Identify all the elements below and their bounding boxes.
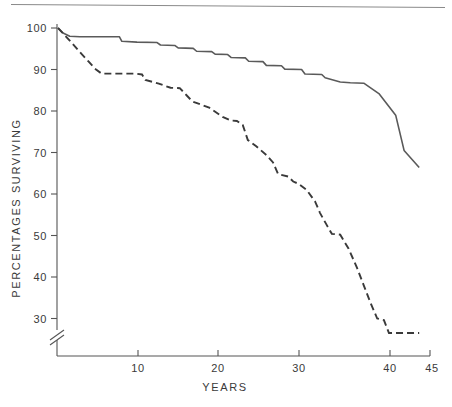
x-axis-title: YEARS <box>202 381 247 393</box>
y-tick-label-50: 50 <box>34 230 47 242</box>
x-tick-label-45: 45 <box>425 362 438 374</box>
series-dashed-curve <box>58 28 419 333</box>
y-tick-label-60: 60 <box>34 188 47 200</box>
y-tick-label-100: 100 <box>27 22 47 34</box>
x-tick-label-30: 30 <box>292 362 305 374</box>
y-tick-label-30: 30 <box>34 313 47 325</box>
x-tick-label-10: 10 <box>131 362 144 374</box>
y-tick-label-70: 70 <box>34 147 47 159</box>
x-axis-ticks: 10 20 30 40 45 <box>131 350 438 374</box>
y-axis-title: PERCENTAGES SURVIVING <box>10 118 22 297</box>
y-tick-label-90: 90 <box>34 64 47 76</box>
x-tick-label-40: 40 <box>383 362 396 374</box>
y-tick-label-40: 40 <box>34 271 47 283</box>
page-top-rule <box>11 5 445 8</box>
x-tick-label-20: 20 <box>211 362 224 374</box>
y-tick-label-80: 80 <box>34 105 47 117</box>
survival-chart-svg: 100 90 80 70 60 50 40 30 10 20 30 <box>0 0 452 407</box>
survival-chart-figure: 100 90 80 70 60 50 40 30 10 20 30 <box>0 0 452 407</box>
series-solid-curve <box>58 28 419 167</box>
y-axis-ticks: 100 90 80 70 60 50 40 30 <box>27 22 57 325</box>
